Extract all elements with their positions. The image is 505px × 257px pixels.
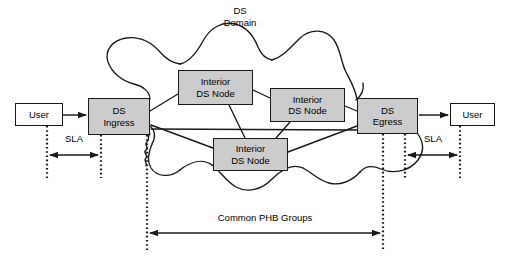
common-phb-groups-label: Common PHB Groups <box>165 212 365 224</box>
interior-ds-node-top-right-box[interactable]: Interior DS Node <box>270 88 345 122</box>
ds-domain-diagram: User DS Ingress Interior DS Node Interio… <box>0 0 505 257</box>
link-interior-topright-to-egress <box>345 106 357 111</box>
user-left-box[interactable]: User <box>15 103 63 126</box>
user-left-label: User <box>29 109 49 121</box>
sla-left-label: SLA <box>52 133 96 145</box>
interior-top-left-label-line2: DS Node <box>196 88 235 100</box>
link-ingress-to-interior-topleft <box>150 94 178 111</box>
interior-bottom-label-line2: DS Node <box>231 155 270 167</box>
ds-egress-label-line2: Egress <box>373 116 403 128</box>
interior-bottom-label-line1: Interior <box>236 143 266 155</box>
interior-top-right-label-line1: Interior <box>293 94 323 106</box>
link-interior-topleft-to-topright <box>253 90 270 98</box>
interior-ds-node-top-left-box[interactable]: Interior DS Node <box>178 70 253 105</box>
sla-right-label: SLA <box>411 133 455 145</box>
interior-top-left-label-line1: Interior <box>201 76 231 88</box>
link-interior-topleft-to-bottom <box>229 105 245 138</box>
ds-ingress-box[interactable]: DS Ingress <box>88 98 150 135</box>
ds-egress-label-line1: DS <box>381 105 394 117</box>
ds-egress-box[interactable]: DS Egress <box>357 98 418 134</box>
ds-ingress-label-line2: Ingress <box>103 117 134 129</box>
user-right-label: User <box>462 109 482 121</box>
interior-ds-node-bottom-box[interactable]: Interior DS Node <box>213 138 288 171</box>
user-right-box[interactable]: User <box>450 103 495 126</box>
ds-ingress-label-line1: DS <box>112 105 125 117</box>
link-ingress-to-egress-lower <box>151 129 357 130</box>
ds-domain-label: DS Domain <box>205 5 275 28</box>
interior-top-right-label-line2: DS Node <box>288 105 327 117</box>
